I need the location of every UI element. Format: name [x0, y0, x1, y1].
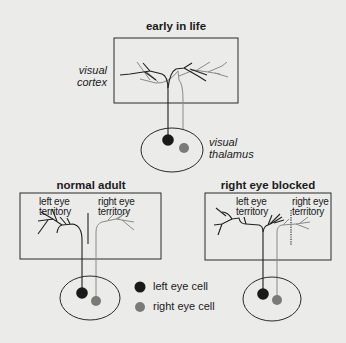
legend-markers — [135, 282, 146, 313]
visual-cortex-label: visual cortex — [77, 64, 107, 88]
visual-thalamus-outline — [60, 276, 120, 320]
ocular-dominance-diagram: early in life visual cortex visual thala… — [0, 0, 346, 343]
right-eye-cell — [272, 295, 282, 305]
right-eye-axon-arbor — [96, 209, 134, 301]
left-eye-territory-line2: territory — [39, 207, 71, 217]
right-eye-territory-label: right eye territory — [98, 197, 135, 217]
visual-cortex-label-line1: visual — [77, 64, 107, 76]
panel-title-right-eye-blocked: right eye blocked — [221, 180, 316, 192]
left-eye-territory-label: left eye territory — [236, 197, 268, 217]
legend-right-eye-dot — [135, 302, 145, 312]
panel-title-early-in-life: early in life — [146, 21, 206, 33]
legend-left-eye-cell-label: left eye cell — [153, 281, 208, 292]
left-eye-cell — [257, 288, 269, 300]
right-eye-territory-line2: territory — [98, 207, 135, 217]
right-eye-cell — [91, 296, 101, 306]
right-eye-cell — [179, 143, 189, 153]
visual-thalamus-outline — [243, 277, 301, 321]
right-eye-territory-line2: territory — [292, 207, 329, 217]
left-eye-cell — [162, 134, 174, 146]
legend-left-eye-dot — [135, 282, 146, 293]
visual-thalamus-label: visual thalamus — [209, 136, 254, 160]
right-eye-axon-arbor — [137, 62, 228, 130]
right-eye-axon-arbor — [277, 217, 310, 300]
legend-right-eye-cell-label: right eye cell — [153, 301, 215, 312]
panel-title-normal-adult: normal adult — [56, 180, 125, 192]
visual-thalamus-outline — [141, 128, 203, 172]
visual-cortex-label-line2: cortex — [77, 76, 107, 88]
visual-thalamus-label-line1: visual — [209, 136, 254, 148]
left-eye-axon-arbor — [38, 209, 82, 293]
left-eye-territory-label: left eye territory — [39, 197, 71, 217]
left-eye-territory-line2: territory — [236, 207, 268, 217]
left-eye-axon-arbor — [214, 208, 284, 294]
visual-thalamus-label-line2: thalamus — [209, 148, 254, 160]
left-eye-cell — [76, 287, 88, 299]
right-eye-territory-label: right eye territory — [292, 197, 329, 217]
cortex-box — [114, 38, 238, 103]
